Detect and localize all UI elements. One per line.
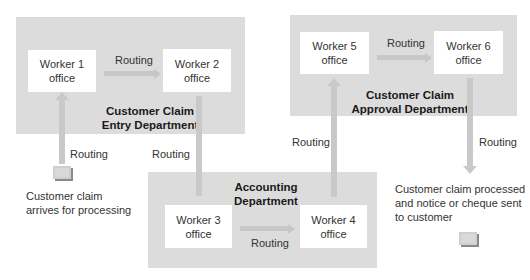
worker-3-label: Worker 3 [176, 213, 220, 227]
accounting-title-line2: Department [226, 194, 306, 208]
end-caption-line2: and notice or cheque sent [395, 196, 530, 210]
worker-2-office: Worker 2 office [163, 49, 231, 92]
accounting-department-title: Accounting Department [226, 180, 306, 208]
worker-6-label: Worker 6 [446, 39, 490, 53]
worker-4-sublabel: office [311, 227, 355, 241]
worker-5-label: Worker 5 [312, 39, 356, 53]
arrow-head-up-icon [327, 78, 341, 86]
routing-label-intake-w1: Routing [70, 147, 108, 161]
end-caption: Customer claim processed and notice or c… [395, 182, 530, 224]
approval-title-line2: Approval Department [345, 102, 475, 116]
start-caption-line1: Customer claim [26, 189, 156, 203]
routing-arrow-intake-w1 [59, 98, 65, 164]
document-icon [459, 232, 477, 245]
approval-department-title: Customer Claim Approval Department [345, 88, 475, 116]
entry-department-title: Customer Claim Entry Department [90, 104, 210, 132]
routing-arrow-w2-w3-inner [196, 172, 202, 196]
routing-label-w6-output: Routing [479, 135, 517, 149]
accounting-title-line1: Accounting [226, 180, 306, 194]
end-caption-line3: to customer [395, 210, 530, 224]
worker-4-office: Worker 4 office [300, 205, 367, 248]
worker-6-office: Worker 6 office [434, 31, 503, 74]
worker-1-label: Worker 1 [40, 57, 84, 71]
worker-2-sublabel: office [175, 71, 219, 85]
worker-3-office: Worker 3 office [165, 205, 232, 248]
routing-label-w1-w2: Routing [115, 53, 153, 67]
routing-arrow-w3-w4 [240, 226, 288, 231]
worker-3-sublabel: office [176, 227, 220, 241]
routing-label-w3-w4: Routing [251, 236, 289, 250]
routing-arrow-w1-w2 [104, 71, 154, 76]
routing-label-w5-w6: Routing [387, 36, 425, 50]
entry-title-line1: Customer Claim [90, 104, 210, 118]
approval-title-line1: Customer Claim [345, 88, 475, 102]
arrow-head-up-icon [55, 92, 69, 100]
start-caption: Customer claim arrives for processing [26, 189, 156, 217]
worker-5-office: Worker 5 office [300, 32, 369, 74]
worker-2-label: Worker 2 [175, 57, 219, 71]
worker-5-sublabel: office [312, 53, 356, 67]
routing-arrow-w4-w5-inner [331, 86, 337, 116]
end-caption-line1: Customer claim processed [395, 182, 530, 196]
document-icon [53, 166, 71, 179]
start-caption-line2: arrives for processing [26, 203, 156, 217]
worker-6-sublabel: office [446, 53, 490, 67]
routing-arrow-w6-output [467, 78, 473, 168]
worker-1-office: Worker 1 office [28, 50, 96, 92]
arrow-head-right-icon [288, 224, 295, 234]
routing-label-w2-w3: Routing [152, 147, 190, 161]
arrow-head-down-icon [463, 166, 477, 174]
entry-title-line2: Entry Department [90, 118, 210, 132]
worker-4-label: Worker 4 [311, 213, 355, 227]
arrow-head-right-icon [425, 53, 432, 63]
routing-label-w4-w5: Routing [292, 135, 330, 149]
routing-arrow-w5-w6 [377, 55, 425, 60]
worker-1-sublabel: office [40, 71, 84, 85]
arrow-head-right-icon [154, 69, 161, 79]
